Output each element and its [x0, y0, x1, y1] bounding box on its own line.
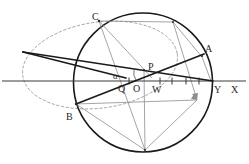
gray-arrowheads — [191, 93, 198, 100]
label-point-A: A — [205, 44, 212, 54]
label-point-O: O — [133, 84, 140, 94]
point-marker-B — [75, 103, 77, 105]
thin-gray-lines — [76, 21, 211, 150]
geometry-canvas — [0, 0, 249, 164]
label-point-B: B — [66, 112, 73, 122]
label-point-W: W — [152, 85, 161, 95]
point-marker-P — [143, 69, 145, 71]
point-marker-farleft — [22, 51, 24, 53]
chord-bottom-right — [145, 100, 197, 150]
chord-bottom-P — [144, 70, 145, 150]
label-point-Y: Y — [214, 85, 221, 95]
label-point-C: C — [92, 12, 99, 22]
angle-alpha-arc — [134, 70, 136, 80]
label-point-Q: Q — [118, 84, 125, 94]
point-marker-top — [172, 21, 174, 23]
chord-B-right — [76, 100, 197, 104]
point-marker-A — [201, 55, 203, 57]
point-marker-bottom — [144, 149, 146, 151]
label-angle-alpha: α — [113, 72, 118, 81]
label-point-X: X — [231, 85, 238, 95]
line-B-to-A — [76, 54, 204, 104]
label-point-P: P — [148, 62, 154, 72]
point-markers — [22, 20, 203, 151]
geometry-figure: C A P α Q O W Y X B — [0, 0, 249, 164]
